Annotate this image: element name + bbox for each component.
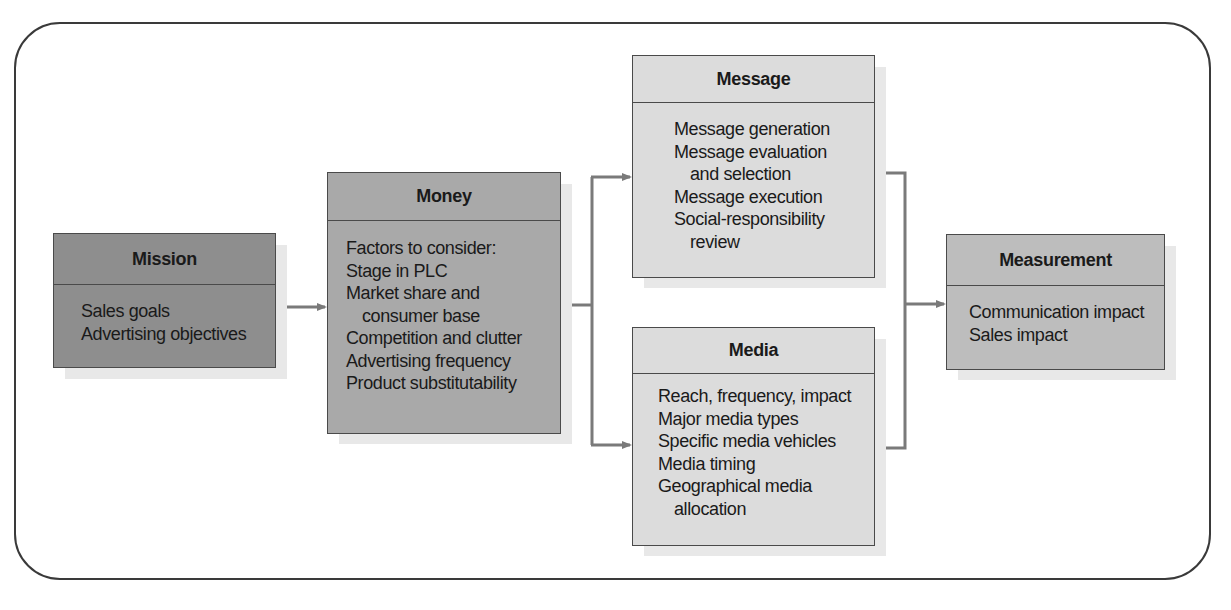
- media-item: Geographical media: [658, 475, 874, 498]
- media-body: Reach, frequency, impact Major media typ…: [633, 374, 874, 545]
- mission-item: Sales goals: [81, 300, 275, 323]
- measurement-title: Measurement: [947, 235, 1164, 286]
- money-item: Product substitutability: [346, 372, 560, 395]
- money-item: consumer base: [346, 305, 560, 328]
- media-item: Specific media vehicles: [658, 430, 874, 453]
- media-title: Media: [633, 328, 874, 374]
- message-item: Social-responsibility: [674, 208, 874, 231]
- money-box: Money Factors to consider: Stage in PLC …: [327, 172, 561, 434]
- money-item: Competition and clutter: [346, 327, 560, 350]
- money-item: Factors to consider:: [346, 237, 560, 260]
- message-item: Message generation: [674, 118, 874, 141]
- media-item: Major media types: [658, 408, 874, 431]
- media-box: Media Reach, frequency, impact Major med…: [632, 327, 875, 546]
- mission-box: Mission Sales goals Advertising objectiv…: [53, 233, 276, 368]
- message-box: Message Message generation Message evalu…: [632, 55, 875, 278]
- mission-item: Advertising objectives: [81, 323, 275, 346]
- money-body: Factors to consider: Stage in PLC Market…: [328, 221, 560, 433]
- media-item: Reach, frequency, impact: [658, 385, 874, 408]
- money-item: Stage in PLC: [346, 260, 560, 283]
- message-item: review: [674, 231, 874, 254]
- money-item: Advertising frequency: [346, 350, 560, 373]
- measurement-item: Sales impact: [969, 324, 1164, 347]
- mission-body: Sales goals Advertising objectives: [54, 285, 275, 367]
- money-title: Money: [328, 173, 560, 221]
- money-item: Market share and: [346, 282, 560, 305]
- message-title: Message: [633, 56, 874, 103]
- message-item: Message execution: [674, 186, 874, 209]
- measurement-box: Measurement Communication impact Sales i…: [946, 234, 1165, 370]
- media-item: Media timing: [658, 453, 874, 476]
- message-body: Message generation Message evaluation an…: [633, 103, 874, 277]
- mission-title: Mission: [54, 234, 275, 285]
- message-item: Message evaluation: [674, 141, 874, 164]
- media-item: allocation: [658, 498, 874, 521]
- measurement-item: Communication impact: [969, 301, 1164, 324]
- message-item: and selection: [674, 163, 874, 186]
- measurement-body: Communication impact Sales impact: [947, 286, 1164, 369]
